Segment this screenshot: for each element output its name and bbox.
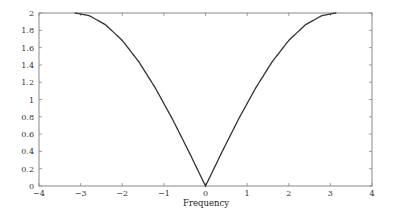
frequency-response-chart: 00.20.40.60.811.21.41.61.82 −4−3−2−10123… xyxy=(0,0,393,212)
plot-frame xyxy=(39,13,372,186)
y-tick-label: 0.4 xyxy=(21,147,34,156)
x-tick-label: 0 xyxy=(203,189,208,198)
y-tick-label: 0.6 xyxy=(21,130,34,139)
x-tick-label: 3 xyxy=(328,189,333,198)
x-tick-label: −1 xyxy=(158,189,170,198)
y-tick-label: 1.6 xyxy=(21,44,34,53)
y-tick-label: 0.8 xyxy=(21,113,34,122)
x-tick-label: −2 xyxy=(116,189,128,198)
plot-border xyxy=(39,13,372,186)
x-axis: −4−3−2−101234 xyxy=(33,13,374,198)
x-tick-label: −3 xyxy=(75,189,87,198)
y-tick-label: 1.2 xyxy=(21,78,34,87)
x-tick-label: 1 xyxy=(245,189,250,198)
y-axis: 00.20.40.60.811.21.41.61.82 xyxy=(21,9,372,191)
x-tick-label: −4 xyxy=(33,189,45,198)
series-line xyxy=(75,13,337,186)
x-axis-label: Frequency xyxy=(183,198,229,208)
y-tick-label: 2 xyxy=(29,9,34,18)
y-tick-label: 1.4 xyxy=(21,61,34,70)
y-tick-label: 0.2 xyxy=(21,165,34,174)
x-tick-label: 4 xyxy=(369,189,374,198)
y-tick-label: 1.8 xyxy=(21,26,34,35)
data-series xyxy=(75,13,337,186)
x-tick-label: 2 xyxy=(286,189,291,198)
y-tick-label: 1 xyxy=(29,96,34,105)
